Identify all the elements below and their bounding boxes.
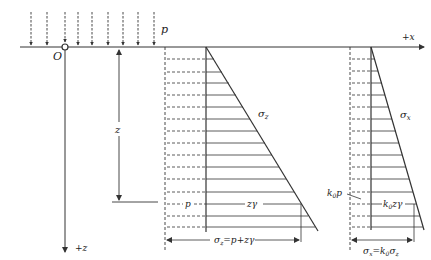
z-axis-label: +z	[75, 243, 88, 253]
k0p-label: k0p	[327, 188, 342, 199]
depth-label: z	[114, 124, 121, 135]
x-axis-label: +x	[402, 32, 415, 42]
lateral-earth-pressure-diagram: p +x O +z z	[0, 0, 431, 260]
k0zgamma-label: k0zγ	[383, 199, 403, 210]
sigma-x-label: σx	[400, 109, 411, 122]
origin-label: O	[53, 50, 62, 63]
sigma-x-formula: σx=k0σz	[363, 246, 400, 257]
sigma-z-label: σz	[258, 108, 269, 121]
sigma-z-formula: σz=p+zγ	[214, 235, 255, 246]
origin-point	[62, 44, 68, 50]
surface-load-arrows	[31, 12, 154, 45]
zgamma-component-label: zγ	[246, 199, 258, 209]
horizontal-stress-diagram	[347, 47, 424, 250]
vertical-stress-diagram	[165, 47, 318, 250]
load-label: p	[161, 23, 168, 36]
p-component-label: p	[185, 199, 191, 209]
